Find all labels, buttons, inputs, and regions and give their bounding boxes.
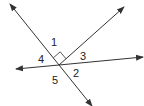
ray-c <box>59 7 124 65</box>
angle-label-2: 2 <box>73 67 79 79</box>
angle-diagram: 1 3 4 2 5 <box>0 0 144 106</box>
line-a <box>10 4 59 65</box>
angle-label-5: 5 <box>52 74 58 86</box>
angle-label-1: 1 <box>51 36 57 48</box>
angle-label-3: 3 <box>80 50 86 62</box>
angle-label-4: 4 <box>38 53 44 65</box>
line-b-right <box>59 57 143 65</box>
right-angle-marker <box>53 52 66 59</box>
line-b-left <box>16 65 59 69</box>
